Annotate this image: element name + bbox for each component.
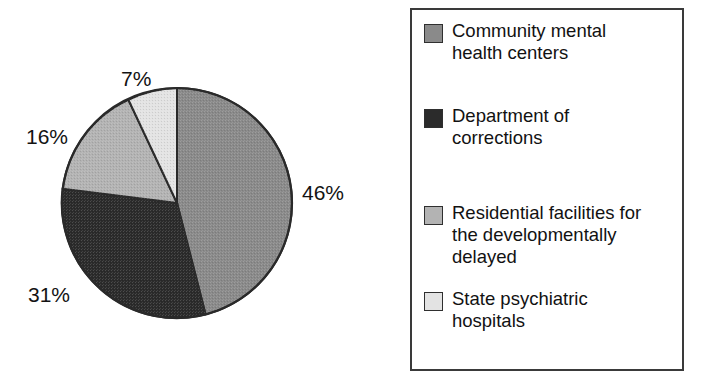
legend-item-residential-facilities: Residential facilities for the developme… bbox=[424, 202, 682, 268]
legend-swatch-icon bbox=[424, 206, 443, 225]
legend-item-label: Community mental health centers bbox=[452, 20, 606, 64]
legend-swatch-icon bbox=[424, 292, 443, 311]
legend-item-label: State psychiatric hospitals bbox=[452, 288, 588, 332]
legend-item-community-mental-health-centers: Community mental health centers bbox=[424, 20, 682, 64]
legend-list: Community mental health centers Departme… bbox=[412, 10, 682, 369]
pie-chart-figure: 46% 31% 16% 7% Community mental health c… bbox=[0, 0, 701, 386]
legend-swatch-icon bbox=[424, 24, 443, 43]
legend-item-label: Department of corrections bbox=[452, 105, 569, 149]
pie-label-46-percent: 46% bbox=[302, 182, 344, 203]
legend-box: Community mental health centers Departme… bbox=[410, 8, 684, 371]
legend-item-state-psychiatric-hospitals: State psychiatric hospitals bbox=[424, 288, 682, 332]
pie-plot-area: 46% 31% 16% 7% bbox=[0, 0, 400, 386]
pie-label-7-percent: 7% bbox=[121, 68, 151, 89]
pie-label-16-percent: 16% bbox=[26, 126, 68, 147]
pie-label-31-percent: 31% bbox=[28, 284, 70, 305]
legend-item-department-of-corrections: Department of corrections bbox=[424, 105, 682, 149]
legend-swatch-icon bbox=[424, 109, 443, 128]
legend-item-label: Residential facilities for the developme… bbox=[452, 202, 641, 268]
